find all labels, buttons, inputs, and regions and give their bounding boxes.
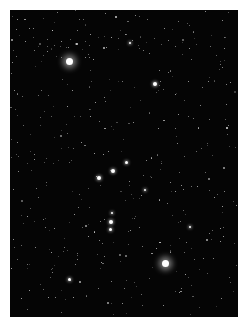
faint-star	[229, 146, 230, 147]
faint-star	[103, 47, 105, 49]
faint-star	[193, 118, 194, 119]
faint-star	[118, 49, 119, 50]
faint-star	[56, 56, 57, 57]
faint-star	[126, 34, 127, 35]
faint-star	[67, 250, 68, 251]
faint-star	[127, 21, 129, 23]
faint-star	[62, 79, 63, 80]
faint-star	[60, 135, 62, 137]
faint-star	[68, 47, 69, 48]
faint-star	[18, 171, 19, 172]
faint-star	[11, 157, 12, 158]
faint-star	[77, 255, 78, 256]
faint-star	[151, 253, 153, 255]
faint-star	[30, 151, 31, 152]
faint-star	[88, 236, 89, 237]
faint-star	[88, 188, 89, 189]
faint-star	[104, 97, 105, 98]
faint-star	[228, 125, 229, 126]
faint-star	[234, 243, 235, 244]
faint-star	[47, 51, 48, 52]
star	[129, 42, 131, 44]
faint-star	[85, 24, 87, 26]
faint-star	[90, 109, 91, 110]
star	[162, 260, 169, 267]
faint-star	[97, 254, 98, 255]
faint-star	[12, 62, 13, 63]
faint-star	[216, 55, 217, 56]
faint-star	[77, 259, 78, 260]
faint-star	[35, 66, 36, 67]
star-field-photo	[10, 10, 238, 317]
faint-star	[49, 249, 50, 250]
faint-star	[75, 10, 76, 11]
faint-star	[230, 282, 231, 283]
faint-star	[199, 307, 200, 308]
faint-star	[54, 22, 55, 23]
faint-star	[68, 147, 69, 148]
faint-star	[29, 290, 30, 291]
faint-star	[13, 50, 14, 51]
faint-star	[21, 245, 22, 246]
faint-star	[102, 263, 104, 265]
faint-star	[175, 128, 176, 129]
faint-star	[34, 154, 35, 155]
faint-star	[46, 158, 47, 159]
faint-star	[224, 60, 225, 61]
faint-star	[85, 57, 86, 58]
faint-star	[163, 89, 164, 90]
faint-star	[180, 291, 182, 293]
faint-star	[179, 292, 180, 293]
faint-star	[38, 46, 39, 47]
faint-star	[54, 137, 55, 138]
faint-star	[125, 255, 127, 257]
faint-star	[178, 114, 179, 115]
faint-star	[17, 93, 19, 95]
faint-star	[201, 148, 202, 149]
faint-star	[141, 294, 142, 295]
faint-star	[16, 56, 17, 57]
faint-star	[90, 116, 91, 117]
faint-star	[34, 221, 35, 222]
faint-star	[61, 290, 62, 291]
faint-star	[89, 86, 91, 88]
faint-star	[157, 154, 159, 156]
faint-star	[64, 247, 65, 248]
faint-star	[133, 122, 134, 123]
faint-star	[158, 90, 159, 91]
faint-star	[17, 19, 18, 20]
faint-star	[46, 182, 47, 183]
faint-star	[170, 70, 172, 72]
faint-star	[51, 48, 53, 50]
faint-star	[21, 200, 23, 202]
faint-star	[86, 295, 88, 297]
faint-star	[181, 185, 182, 186]
faint-star	[43, 55, 44, 56]
faint-star	[220, 61, 221, 62]
faint-star	[154, 38, 155, 39]
faint-star	[191, 59, 192, 60]
faint-star	[188, 116, 189, 117]
faint-star	[93, 59, 94, 60]
faint-star	[200, 105, 201, 106]
faint-star	[179, 172, 180, 173]
faint-star	[73, 297, 74, 298]
faint-star	[138, 45, 139, 46]
faint-star	[219, 69, 220, 70]
faint-star	[223, 227, 224, 228]
faint-star	[198, 127, 200, 129]
star	[68, 278, 71, 281]
faint-star	[175, 46, 176, 47]
faint-star	[140, 100, 142, 102]
faint-star	[98, 288, 99, 289]
faint-star	[233, 201, 234, 202]
faint-star	[121, 151, 122, 152]
faint-star	[188, 277, 189, 278]
faint-star	[101, 262, 102, 263]
faint-star	[53, 163, 54, 164]
faint-star	[184, 156, 185, 157]
faint-star	[185, 274, 186, 275]
faint-star	[181, 288, 182, 289]
faint-star	[156, 92, 157, 93]
faint-star	[11, 39, 13, 41]
